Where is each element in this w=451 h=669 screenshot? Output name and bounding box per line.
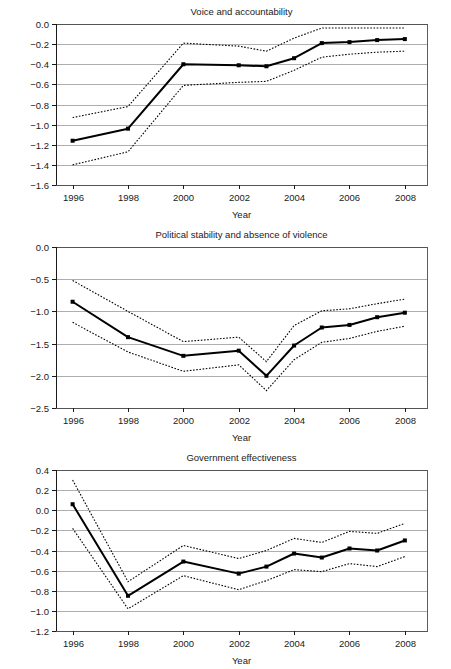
y-tick-label: −1.2	[30, 626, 49, 637]
data-point-marker	[320, 41, 324, 45]
x-tick-label: 1996	[63, 638, 84, 649]
plot-frame	[57, 25, 428, 186]
chart-title: Government effectiveness	[186, 452, 296, 463]
x-axis-label: Year	[232, 655, 251, 666]
x-tick-label: 2002	[229, 192, 250, 203]
series-line-lower-confidence-bound	[73, 528, 405, 609]
y-tick-label: −1.0	[30, 120, 49, 131]
data-point-marker	[71, 300, 75, 304]
data-point-marker	[292, 552, 296, 556]
data-point-marker	[71, 502, 75, 506]
data-point-marker	[403, 37, 407, 41]
data-point-marker	[237, 349, 241, 353]
x-axis-label: Year	[232, 432, 251, 443]
data-point-marker	[181, 354, 185, 358]
data-point-marker	[237, 572, 241, 576]
x-tick-label: 2006	[339, 192, 360, 203]
y-tick-label: −1.2	[30, 140, 49, 151]
x-tick-label: 2000	[173, 638, 194, 649]
data-point-marker	[126, 594, 130, 598]
series-line-upper-confidence-bound	[73, 480, 405, 582]
data-point-marker	[126, 335, 130, 339]
y-tick-label: −2.5	[30, 403, 49, 414]
y-tick-label: −0.5	[30, 274, 49, 285]
data-point-marker	[292, 344, 296, 348]
y-tick-label: −1.6	[30, 180, 49, 191]
data-point-marker	[71, 139, 75, 143]
y-tick-label: −0.2	[30, 39, 49, 50]
data-point-marker	[292, 56, 296, 60]
y-tick-label: −2.0	[30, 371, 49, 382]
y-tick-label: −1.0	[30, 306, 49, 317]
x-tick-label: 2000	[173, 192, 194, 203]
x-tick-label: 2002	[229, 415, 250, 426]
data-point-marker	[237, 63, 241, 67]
governance-indicators-figure: Voice and accountability0.0−0.2−0.4−0.6−…	[0, 0, 451, 669]
panel-voice-and-accountability: Voice and accountability0.0−0.2−0.4−0.6−…	[0, 0, 451, 223]
x-tick-label: 2008	[395, 192, 416, 203]
y-tick-label: −1.4	[30, 160, 49, 171]
data-point-marker	[375, 315, 379, 319]
x-tick-label: 2006	[339, 638, 360, 649]
y-tick-label: −1.5	[30, 339, 49, 350]
y-tick-label: 0.0	[36, 242, 49, 253]
data-point-marker	[403, 538, 407, 542]
data-point-marker	[264, 374, 268, 378]
data-point-marker	[375, 38, 379, 42]
y-tick-label: 0.2	[36, 485, 49, 496]
chart-voice-and-accountability: Voice and accountability0.0−0.2−0.4−0.6−…	[0, 0, 451, 223]
y-tick-label: −0.2	[30, 525, 49, 536]
data-point-marker	[126, 127, 130, 131]
data-point-marker	[264, 565, 268, 569]
y-tick-label: −0.4	[30, 59, 49, 70]
x-tick-label: 1996	[63, 415, 84, 426]
x-tick-label: 2008	[395, 415, 416, 426]
data-point-marker	[181, 62, 185, 66]
y-tick-label: 0.0	[36, 19, 49, 30]
data-point-marker	[264, 64, 268, 68]
data-point-marker	[181, 560, 185, 564]
series-line-lower-confidence-bound	[73, 51, 405, 165]
data-point-marker	[375, 549, 379, 553]
data-point-marker	[403, 311, 407, 315]
chart-government-effectiveness: Government effectiveness0.40.20.0−0.2−0.…	[0, 446, 451, 669]
x-tick-label: 2000	[173, 415, 194, 426]
panel-government-effectiveness: Government effectiveness0.40.20.0−0.2−0.…	[0, 446, 451, 669]
x-tick-label: 2004	[284, 415, 305, 426]
data-point-marker	[347, 323, 351, 327]
chart-title: Political stability and absence of viole…	[155, 229, 327, 240]
data-point-marker	[320, 326, 324, 330]
x-tick-label: 1998	[118, 192, 139, 203]
x-tick-label: 1998	[118, 638, 139, 649]
y-tick-label: −0.6	[30, 79, 49, 90]
y-tick-label: −0.8	[30, 100, 49, 111]
y-tick-label: −1.0	[30, 606, 49, 617]
x-tick-label: 1998	[118, 415, 139, 426]
data-point-marker	[347, 546, 351, 550]
data-point-marker	[347, 40, 351, 44]
x-tick-label: 2002	[229, 638, 250, 649]
y-tick-label: −0.4	[30, 546, 49, 557]
y-tick-label: −0.6	[30, 566, 49, 577]
series-line-estimate	[73, 504, 405, 596]
x-tick-label: 2008	[395, 638, 416, 649]
data-point-marker	[320, 556, 324, 560]
y-tick-label: 0.4	[36, 465, 49, 476]
chart-title: Voice and accountability	[191, 6, 293, 17]
x-tick-label: 2004	[284, 192, 305, 203]
x-tick-label: 2006	[339, 415, 360, 426]
x-tick-label: 2004	[284, 638, 305, 649]
y-tick-label: −0.8	[30, 586, 49, 597]
x-axis-label: Year	[232, 209, 251, 220]
chart-political-stability-and-absence-of-violence: Political stability and absence of viole…	[0, 223, 451, 446]
x-tick-label: 1996	[63, 192, 84, 203]
panel-political-stability-and-absence-of-violence: Political stability and absence of viole…	[0, 223, 451, 446]
y-tick-label: 0.0	[36, 505, 49, 516]
